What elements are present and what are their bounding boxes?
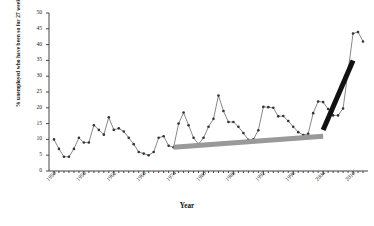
- y-tick-label: 45: [24, 25, 42, 31]
- y-tick-label: 25: [24, 88, 42, 94]
- data-point-marker: [222, 110, 225, 113]
- y-tick-label: 35: [24, 56, 42, 62]
- data-point-marker: [362, 40, 365, 43]
- data-point-marker: [63, 155, 66, 158]
- data-point-marker: [237, 125, 240, 128]
- y-tick-label: 10: [24, 135, 42, 141]
- data-point-marker: [93, 124, 96, 127]
- y-tick-label: 50: [24, 9, 42, 15]
- y-tick-label: 30: [24, 72, 42, 78]
- data-point-marker: [212, 118, 215, 121]
- data-point-marker: [292, 125, 295, 128]
- data-point-marker: [147, 154, 150, 157]
- data-point-marker: [297, 131, 300, 134]
- y-tick-label: 40: [24, 41, 42, 47]
- data-point-marker: [322, 101, 325, 104]
- data-point-marker: [73, 148, 76, 151]
- data-point-marker: [53, 138, 56, 141]
- data-point-marker: [152, 151, 155, 154]
- y-axis-title-text: % unemployed who have been so for 27 wee…: [15, 0, 22, 112]
- data-point-marker: [287, 120, 290, 123]
- trend-annotations: [174, 60, 353, 147]
- y-axis-title: % unemployed who have been so for 27 wee…: [15, 0, 22, 112]
- data-point-marker: [98, 129, 101, 132]
- y-tick-label: 5: [24, 151, 42, 157]
- data-point-marker: [232, 121, 235, 124]
- data-point-marker: [192, 137, 195, 140]
- data-point-marker: [207, 125, 210, 128]
- data-point-marker: [187, 124, 190, 127]
- y-tick-label: 0: [24, 167, 42, 173]
- black-trend-bar: [323, 60, 353, 130]
- data-point-marker: [113, 129, 116, 132]
- x-axis-title: Year: [0, 202, 374, 210]
- data-point-marker: [142, 152, 145, 155]
- data-point-marker: [83, 141, 86, 144]
- y-tick-label: 20: [24, 104, 42, 110]
- data-point-marker: [317, 100, 320, 103]
- data-point-marker: [182, 111, 185, 114]
- chart-container: 05101520253035404550 1950195619621968197…: [0, 0, 374, 226]
- data-point-marker: [88, 141, 91, 144]
- data-point-marker: [68, 155, 71, 158]
- data-point-marker: [357, 31, 360, 34]
- data-point-marker: [257, 129, 260, 132]
- data-point-marker: [312, 112, 315, 115]
- data-point-marker: [242, 132, 245, 135]
- y-tick-label: 15: [24, 120, 42, 126]
- axes: [46, 13, 368, 175]
- data-point-marker: [127, 137, 130, 140]
- data-point-marker: [162, 135, 165, 138]
- data-point-marker: [337, 114, 340, 117]
- line-chart-plot: [0, 0, 374, 226]
- data-point-marker: [217, 94, 220, 97]
- data-point-marker: [352, 32, 355, 35]
- data-point-marker: [122, 130, 125, 133]
- data-point-marker: [157, 137, 160, 140]
- data-point-marker: [202, 137, 205, 140]
- data-point-marker: [108, 116, 111, 119]
- data-point-marker: [277, 115, 280, 118]
- data-point-marker: [282, 115, 285, 118]
- data-point-marker: [103, 133, 106, 136]
- data-point-marker: [262, 106, 265, 109]
- data-point-marker: [177, 122, 180, 125]
- data-point-marker: [307, 132, 310, 135]
- data-point-marker: [342, 107, 345, 110]
- data-point-marker: [137, 151, 140, 154]
- gray-trend-bar: [174, 136, 324, 147]
- data-point-marker: [58, 148, 61, 151]
- data-point-marker: [78, 137, 81, 140]
- data-point-marker: [132, 143, 135, 146]
- data-point-marker: [272, 107, 275, 110]
- data-point-marker: [167, 144, 170, 147]
- data-point-marker: [117, 127, 120, 130]
- data-point-marker: [227, 121, 230, 124]
- data-point-marker: [267, 106, 270, 109]
